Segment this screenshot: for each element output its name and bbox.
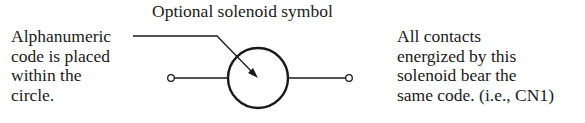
left-terminal-icon xyxy=(168,75,175,82)
solenoid-diagram xyxy=(0,0,585,123)
leader-arrow xyxy=(133,36,254,74)
right-terminal-icon xyxy=(346,75,353,82)
